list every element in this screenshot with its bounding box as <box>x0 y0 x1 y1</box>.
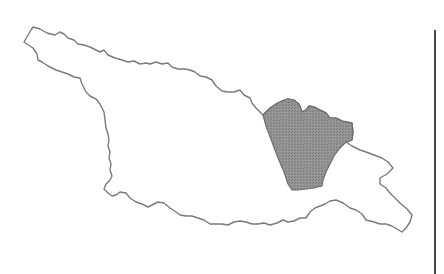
country-outline <box>24 27 412 232</box>
country-map <box>0 0 444 274</box>
frame-rule <box>434 30 436 274</box>
